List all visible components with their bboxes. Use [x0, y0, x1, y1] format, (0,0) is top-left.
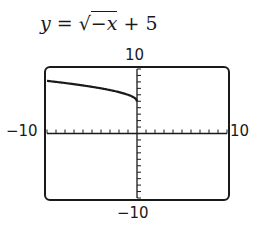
axes — [47, 69, 227, 198]
function-curve — [47, 81, 137, 101]
graph-window — [0, 0, 260, 232]
